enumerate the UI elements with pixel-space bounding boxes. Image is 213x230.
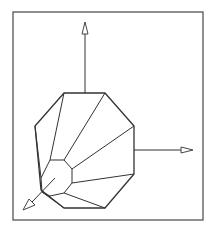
inner-octagon	[41, 160, 72, 196]
spoke-edge	[50, 93, 64, 160]
z-axis-arrowhead-icon	[82, 22, 88, 34]
diagram-canvas	[0, 0, 213, 230]
spoke-edge	[42, 192, 64, 208]
x-axis-arrowhead-icon	[181, 147, 193, 153]
outer-octagon	[35, 93, 134, 208]
spoke-edge	[72, 174, 134, 183]
frustum	[35, 93, 134, 208]
spoke-edge	[35, 126, 41, 178]
axes-group	[23, 22, 193, 210]
spoke-edge	[64, 193, 105, 208]
